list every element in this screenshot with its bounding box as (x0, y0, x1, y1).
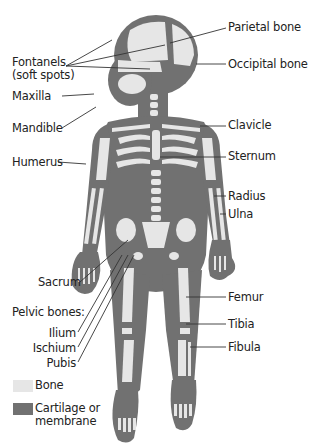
label-maxilla: Maxilla (12, 90, 51, 103)
label-humerus: Humerus (12, 156, 63, 169)
label-tibia: Tibia (228, 318, 254, 331)
label-radius: Radius (228, 190, 265, 203)
legend-swatch-bone (13, 380, 33, 392)
label-fontanels: Fontanels (soft spots) (12, 56, 74, 82)
label-ischium: Ischium (20, 342, 76, 355)
label-clavicle: Clavicle (228, 119, 271, 132)
label-sacrum: Sacrum (38, 276, 81, 289)
label-ilium: Ilium (20, 327, 76, 340)
label-mandible: Mandible (12, 122, 63, 135)
label-pelvic-bones-heading: Pelvic bones: (12, 306, 85, 319)
legend-label-cartilage: Cartilage or membrane (35, 402, 100, 428)
legend-swatch-cartilage (13, 403, 33, 415)
label-occipital-bone: Occipital bone (228, 58, 308, 71)
label-femur: Femur (228, 291, 263, 304)
legend-label-cartilage-line2: membrane (35, 415, 100, 428)
label-fibula: Fibula (228, 341, 261, 354)
label-fontanels-line2: (soft spots) (12, 69, 74, 82)
label-pubis: Pubis (20, 357, 76, 370)
label-ulna: Ulna (228, 208, 253, 221)
label-parietal-bone: Parietal bone (228, 21, 301, 34)
legend-label-bone: Bone (35, 379, 64, 392)
label-sternum: Sternum (228, 150, 276, 163)
